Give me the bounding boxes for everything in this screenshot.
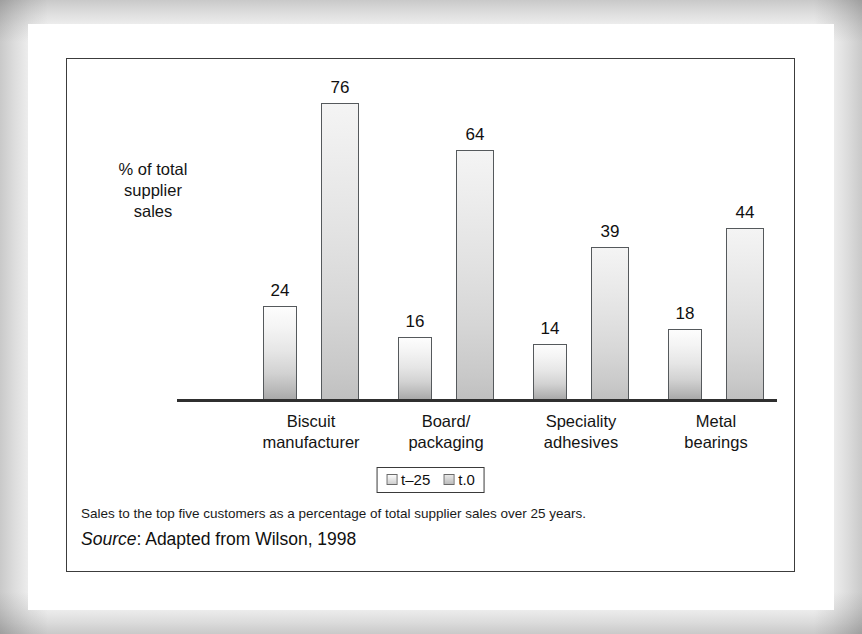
category-label-1: Board/ packaging: [368, 411, 524, 453]
legend-entry-0: t–25: [386, 471, 430, 488]
plot-area: % of total supplier sales 2476Biscuit ma…: [67, 59, 796, 404]
figure-box: % of total supplier sales 2476Biscuit ma…: [66, 58, 795, 572]
bar-1-0: [398, 337, 432, 399]
figure-page: % of total supplier sales 2476Biscuit ma…: [0, 0, 862, 634]
category-label-2: Speciality adhesives: [503, 411, 659, 453]
bar-value-0-1: 76: [309, 79, 371, 96]
series-0-swatch-icon: [386, 474, 397, 485]
bar-value-1-1: 64: [444, 126, 506, 143]
x-axis-baseline: [177, 399, 777, 402]
bar-value-2-1: 39: [579, 223, 641, 240]
bar-value-0-0: 24: [251, 282, 309, 299]
bar-0-0: [263, 306, 297, 399]
bar-3-0: [668, 329, 702, 399]
bar-2-1: [591, 247, 629, 399]
bar-value-1-0: 16: [386, 313, 444, 330]
bar-1-1: [456, 150, 494, 399]
legend-entry-1: t.0: [443, 471, 475, 488]
figure-source: Source: Adapted from Wilson, 1998: [81, 529, 781, 551]
bar-2-0: [533, 344, 567, 399]
bar-value-3-1: 44: [714, 204, 776, 221]
bar-0-1: [321, 103, 359, 399]
bars-layer: [67, 59, 796, 401]
bar-3-1: [726, 228, 764, 399]
chart-legend: t–25 t.0: [376, 467, 485, 493]
category-label-0: Biscuit manufacturer: [233, 411, 389, 453]
source-rest: : Adapted from Wilson, 1998: [136, 529, 356, 549]
category-label-3: Metal bearings: [638, 411, 794, 453]
legend-label-1: t.0: [458, 471, 475, 488]
bar-value-2-0: 14: [521, 320, 579, 337]
figure-caption: Sales to the top five customers as a per…: [81, 505, 781, 523]
source-word: Source: [81, 529, 136, 549]
bar-value-3-0: 18: [656, 305, 714, 322]
legend-label-0: t–25: [401, 471, 430, 488]
series-1-swatch-icon: [443, 474, 454, 485]
